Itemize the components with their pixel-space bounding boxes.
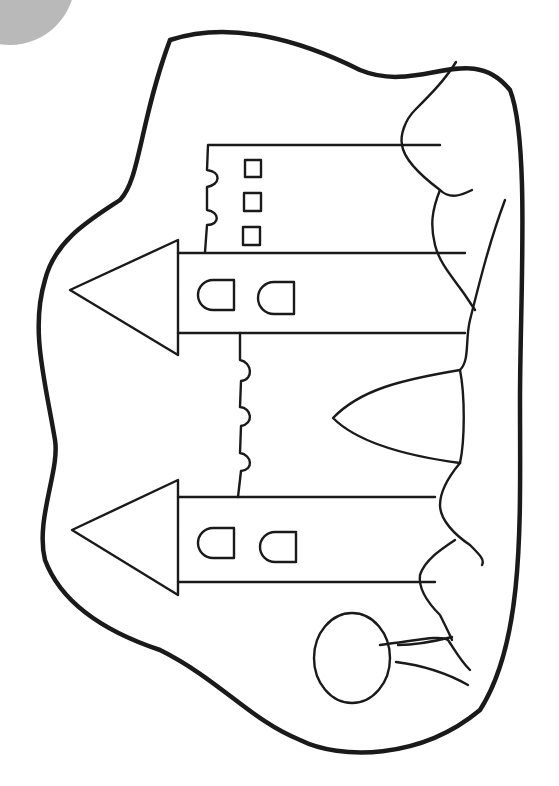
square-window [244, 193, 261, 211]
center-wall [238, 333, 464, 497]
castle-coloring-page [0, 0, 559, 786]
arched-window [258, 282, 294, 314]
upper-tower [70, 240, 465, 355]
square-window [245, 160, 261, 177]
castle-gate [333, 370, 464, 463]
tower-walls [178, 253, 465, 333]
arched-window [260, 532, 296, 562]
bush-outline [402, 62, 472, 196]
keep-battlement-line [205, 145, 440, 252]
bush-outline [420, 540, 455, 640]
bush-outline [460, 200, 505, 370]
arched-window [198, 528, 234, 558]
gray-corner-shape [0, 0, 75, 45]
tree-trunk-line [396, 662, 468, 685]
tower-roof [72, 480, 178, 595]
arched-window [198, 280, 234, 310]
tree-crown [314, 613, 390, 703]
tower-roof [70, 240, 178, 355]
wall-battlement-line [238, 333, 250, 497]
bushes [380, 62, 505, 670]
bush-outline [432, 190, 475, 310]
bush-outline [440, 463, 483, 565]
tower-walls [178, 497, 435, 582]
lower-tower [72, 480, 435, 595]
rear-keep [205, 145, 440, 252]
towers [70, 240, 465, 595]
square-window [243, 227, 260, 245]
